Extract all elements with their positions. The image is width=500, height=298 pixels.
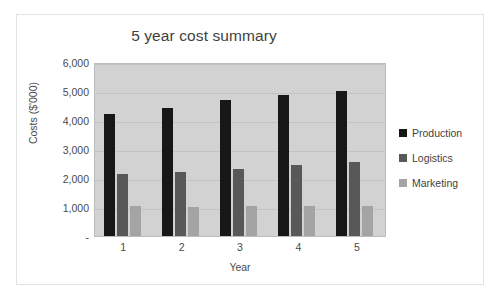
x-axis-tick-label: 3 bbox=[211, 241, 269, 257]
bar-logistics-year-3[interactable] bbox=[233, 169, 244, 236]
y-axis-tick-label: 6,000 bbox=[35, 57, 89, 69]
legend-label: Production bbox=[412, 127, 462, 139]
bar-group bbox=[327, 64, 385, 236]
legend-item-marketing[interactable]: Marketing bbox=[399, 177, 483, 189]
bar-logistics-year-5[interactable] bbox=[349, 162, 360, 236]
bar-group bbox=[211, 64, 269, 236]
bar-logistics-year-1[interactable] bbox=[117, 174, 128, 236]
bar-logistics-year-4[interactable] bbox=[291, 165, 302, 236]
bar-group bbox=[269, 64, 327, 236]
x-axis-tick-label: 2 bbox=[152, 241, 210, 257]
bar-logistics-year-2[interactable] bbox=[175, 172, 186, 236]
plot-area bbox=[94, 63, 386, 237]
cut-off-top-text bbox=[0, 0, 500, 10]
chart-legend: ProductionLogisticsMarketing bbox=[399, 127, 483, 202]
y-axis-tick-labels: -1,0002,0003,0004,0005,0006,000 bbox=[35, 63, 89, 237]
chart-title: 5 year cost summary bbox=[17, 27, 483, 45]
bar-production-year-3[interactable] bbox=[220, 100, 231, 236]
legend-swatch-icon bbox=[399, 179, 407, 187]
legend-item-production[interactable]: Production bbox=[399, 127, 483, 139]
y-axis-tick-label: 1,000 bbox=[35, 202, 89, 214]
legend-label: Marketing bbox=[412, 177, 458, 189]
bar-group bbox=[153, 64, 211, 236]
y-axis-tick-label: 4,000 bbox=[35, 115, 89, 127]
bar-marketing-year-1[interactable] bbox=[130, 206, 141, 236]
legend-swatch-icon bbox=[399, 129, 407, 137]
y-axis-tick-label: 3,000 bbox=[35, 144, 89, 156]
bar-groups bbox=[95, 64, 385, 236]
legend-label: Logistics bbox=[412, 152, 453, 164]
chart-container: 5 year cost summary Costs ($'000) -1,000… bbox=[16, 14, 484, 285]
x-axis-tick-labels: 12345 bbox=[94, 241, 386, 257]
bar-production-year-1[interactable] bbox=[104, 114, 115, 236]
bar-production-year-2[interactable] bbox=[162, 108, 173, 236]
legend-item-logistics[interactable]: Logistics bbox=[399, 152, 483, 164]
x-axis-tick-label: 5 bbox=[328, 241, 386, 257]
x-axis-tick-label: 1 bbox=[94, 241, 152, 257]
x-axis-tick-label: 4 bbox=[269, 241, 327, 257]
bar-production-year-5[interactable] bbox=[336, 91, 347, 236]
bar-marketing-year-2[interactable] bbox=[188, 207, 199, 236]
y-axis-tick-label: 2,000 bbox=[35, 173, 89, 185]
bar-marketing-year-4[interactable] bbox=[304, 206, 315, 236]
bar-group bbox=[95, 64, 153, 236]
legend-swatch-icon bbox=[399, 154, 407, 162]
y-axis-tick-label: - bbox=[35, 231, 89, 243]
bar-marketing-year-3[interactable] bbox=[246, 206, 257, 236]
bar-production-year-4[interactable] bbox=[278, 95, 289, 236]
bar-marketing-year-5[interactable] bbox=[362, 206, 373, 236]
x-axis-title: Year bbox=[94, 261, 386, 273]
y-axis-tick-label: 5,000 bbox=[35, 86, 89, 98]
